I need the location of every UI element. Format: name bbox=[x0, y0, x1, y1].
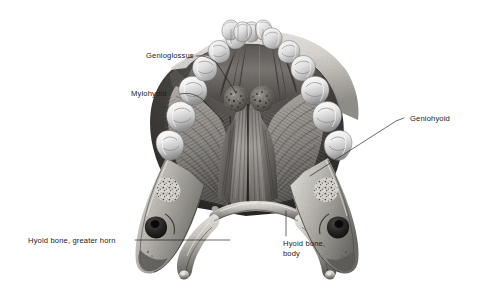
label-hyoid-greater-horn: Hyoid bone, greater horn bbox=[28, 236, 116, 245]
anatomy-figure: Genioglossus Mylohyoid Geniohyoid Hyoid … bbox=[0, 0, 479, 290]
label-genioglossus: Genioglossus bbox=[146, 51, 194, 60]
label-geniohyoid: Geniohyoid bbox=[410, 114, 450, 123]
label-mylohyoid: Mylohyoid bbox=[131, 89, 167, 98]
anatomy-illustration-svg: Genioglossus Mylohyoid Geniohyoid Hyoid … bbox=[0, 0, 479, 290]
label-hyoid-body-line1: Hyoid bone, bbox=[283, 239, 325, 248]
label-hyoid-body-line2: body bbox=[283, 249, 300, 258]
tooth-canine-right bbox=[262, 28, 282, 49]
tooth-molar-1-right bbox=[301, 76, 329, 105]
